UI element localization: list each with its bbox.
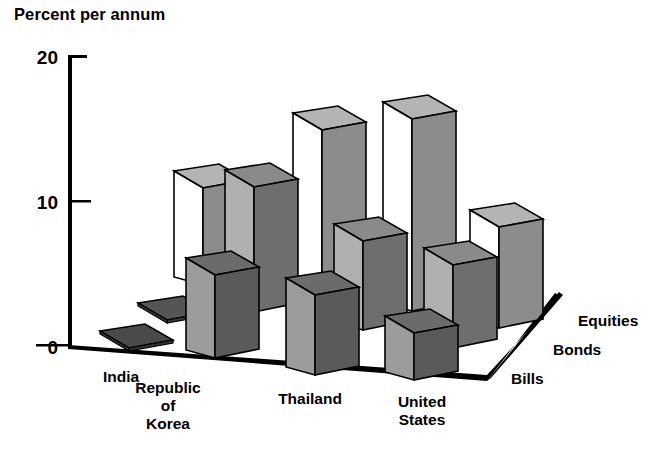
- legend-item-equities[interactable]: Equities: [578, 312, 638, 329]
- y-tick-label-20: 20: [37, 47, 58, 68]
- bar-bills-thailand: [286, 271, 359, 375]
- bar-bills-korea: [186, 251, 259, 358]
- category-label-korea-line1: Republic: [135, 379, 201, 396]
- y-tick-label-10: 10: [37, 192, 58, 213]
- bar-bills-united-states: [385, 309, 458, 380]
- y-axis-line: [68, 56, 72, 348]
- chart-root: Percent per annum 20 10 0: [0, 0, 662, 473]
- category-label-united-states-line1: United: [398, 393, 446, 410]
- y-tick-mark-10: [72, 200, 91, 203]
- legend-item-bills[interactable]: Bills: [511, 370, 544, 387]
- category-label-korea-line2: of: [161, 397, 176, 414]
- x-axis-labels: India Republic of Korea Thailand United …: [103, 368, 446, 432]
- chart-title: Percent per annum: [14, 5, 165, 23]
- category-label-india: India: [103, 368, 140, 385]
- chart-svg: Percent per annum 20 10 0: [0, 0, 662, 473]
- y-tick-label-0: 0: [47, 337, 58, 358]
- category-label-united-states-line2: States: [399, 411, 446, 428]
- category-label-thailand: Thailand: [278, 390, 342, 407]
- bar-bills-india: [100, 324, 173, 351]
- legend: Equities Bonds Bills: [511, 312, 638, 387]
- y-tick-mark-0: [36, 344, 72, 347]
- category-label-korea-line3: Korea: [146, 415, 190, 432]
- y-tick-mark-20: [68, 55, 87, 58]
- y-axis: 20 10 0: [36, 47, 91, 358]
- legend-item-bonds[interactable]: Bonds: [553, 341, 601, 358]
